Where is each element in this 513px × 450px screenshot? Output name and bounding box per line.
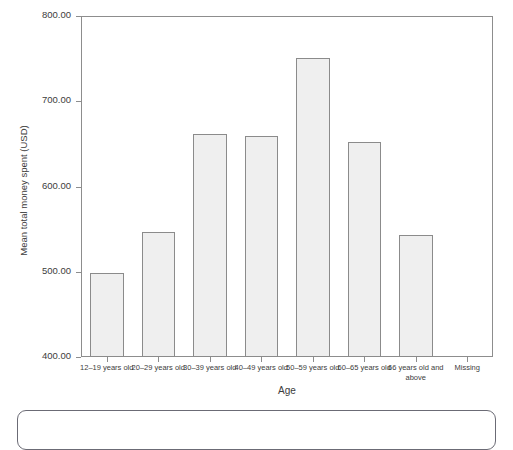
bar <box>142 232 176 357</box>
bar <box>296 58 330 357</box>
bar <box>245 136 279 357</box>
y-axis-tick: 800.00 <box>0 16 81 17</box>
bar-slot <box>184 16 236 357</box>
bar-slot <box>133 16 185 357</box>
x-axis-tick-mark <box>364 357 365 362</box>
y-axis-tick-mark <box>76 357 81 358</box>
bar <box>348 142 382 357</box>
bar-slot <box>236 16 288 357</box>
y-axis-tick-label: 500.00 <box>42 265 71 276</box>
y-axis-tick-label: 400.00 <box>42 350 71 361</box>
x-axis-tick-mark <box>313 357 314 362</box>
x-axis-tick-mark <box>107 357 108 362</box>
bar-slot <box>81 16 133 357</box>
bar-slot <box>339 16 391 357</box>
x-axis-tick-mark <box>261 357 262 362</box>
x-axis-tick-mark <box>467 357 468 362</box>
y-axis-tick-label: 600.00 <box>42 180 71 191</box>
y-axis-tick: 500.00 <box>0 272 81 273</box>
y-axis-tick-label: 700.00 <box>42 94 71 105</box>
y-axis-tick-label: 800.00 <box>42 9 71 20</box>
y-axis-tick: 700.00 <box>0 101 81 102</box>
bottom-rounded-panel <box>17 410 496 450</box>
bar-slot <box>287 16 339 357</box>
bar-chart-figure: Mean total money spent (USD) 400.00500.0… <box>0 0 513 405</box>
x-axis-tick-mark <box>210 357 211 362</box>
y-axis-title: Mean total money spent (USD) <box>18 86 29 296</box>
x-axis-category-label: Missing <box>438 363 498 373</box>
bar-slot <box>390 16 442 357</box>
bar-series <box>81 16 493 357</box>
bar <box>193 134 227 357</box>
x-axis-tick-mark <box>416 357 417 362</box>
x-axis-title: Age <box>81 385 493 396</box>
bar <box>90 273 124 357</box>
y-axis-tick: 400.00 <box>0 357 81 358</box>
y-axis-tick: 600.00 <box>0 187 81 188</box>
bar <box>399 235 433 357</box>
x-axis-tick-mark <box>158 357 159 362</box>
